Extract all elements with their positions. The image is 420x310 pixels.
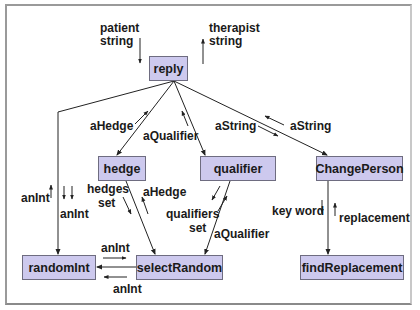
label-aqualifier-up: aQualifier xyxy=(143,130,198,143)
label-anint-top: anInt xyxy=(101,242,130,255)
label-astring-down: aString xyxy=(215,120,256,133)
label-patient-string: string xyxy=(100,35,133,48)
label-therapist-string: string xyxy=(209,35,242,48)
label-hedges-set: set xyxy=(98,197,115,210)
node-reply: reply xyxy=(149,56,188,81)
node-select-random: selectRandom xyxy=(136,255,223,280)
node-change-person: ChangePerson xyxy=(316,156,403,181)
label-hedges: hedges xyxy=(87,183,129,196)
node-random-int: randomInt xyxy=(22,255,96,280)
label-qualifiers-set: set xyxy=(189,222,206,235)
label-astring-up: aString xyxy=(290,120,331,133)
label-anint-bottom: anInt xyxy=(113,283,142,296)
label-replacement: replacement xyxy=(339,212,410,225)
label-key-word: key word xyxy=(272,205,324,218)
node-hedge: hedge xyxy=(98,156,146,181)
label-ahedge-sr: aHedge xyxy=(143,186,186,199)
label-anint-up-left: anInt xyxy=(21,192,50,205)
node-find-replacement: findReplacement xyxy=(300,255,404,280)
label-aqualifier-sr: aQualifier xyxy=(214,228,269,241)
node-qualifier: qualifier xyxy=(200,156,276,181)
label-ahedge-up: aHedge xyxy=(90,120,133,133)
label-anint-down-left: anInt xyxy=(60,208,89,221)
label-qualifiers: qualifiers xyxy=(166,208,219,221)
